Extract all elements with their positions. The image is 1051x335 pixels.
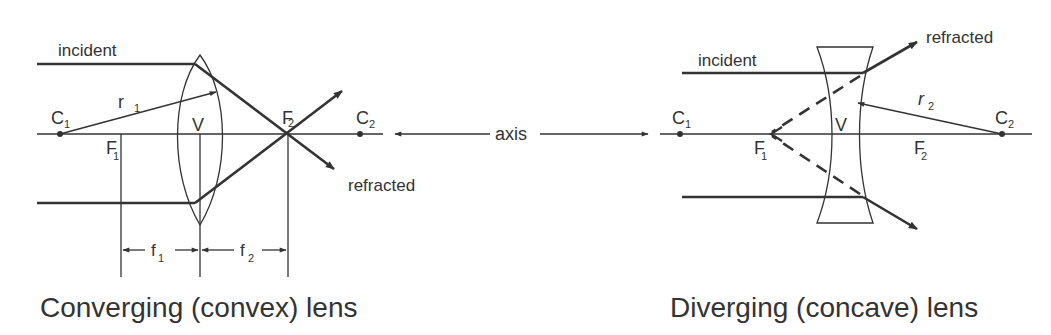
c2-point <box>999 131 1005 137</box>
concave-r-label: r <box>918 89 925 109</box>
convex-vertex-label: V <box>192 115 204 135</box>
concave-vertex-label: V <box>835 115 847 135</box>
convex-c1-subscript: 1 <box>64 118 70 130</box>
lens-diagram: incident refracted C 1 C 2 F 1 F 2 r 1 V… <box>0 0 1051 335</box>
concave-refracted-label: refracted <box>926 28 993 47</box>
convex-c2-subscript: 2 <box>369 118 375 130</box>
c1-point <box>677 131 683 137</box>
axis-annotation: axis <box>395 124 648 144</box>
concave-f1-subscript: 1 <box>761 150 767 162</box>
convex-r-subscript: 1 <box>134 102 140 114</box>
refracted-ray-bottom <box>195 91 342 203</box>
refracted-ray-top <box>195 64 334 169</box>
concave-r-subscript: 2 <box>928 100 934 112</box>
convex-f1-dim-label: f <box>151 241 156 260</box>
c2-point <box>357 131 363 137</box>
concave-incident-label: incident <box>698 51 757 70</box>
concave-lens-diagram: incident refracted C 1 C 2 F 1 F 2 r 2 V… <box>660 28 1032 323</box>
convex-incident-label: incident <box>58 41 117 60</box>
convex-f1-dim-subscript: 1 <box>158 252 164 264</box>
concave-c2-label: C <box>995 108 1008 128</box>
convex-f1-subscript: 1 <box>113 150 119 162</box>
convex-c2-label: C <box>356 108 369 128</box>
convex-lens-diagram: incident refracted C 1 C 2 F 1 F 2 r 1 V… <box>37 41 415 323</box>
concave-c1-subscript: 1 <box>685 118 691 130</box>
refracted-ray-bottom <box>863 197 917 229</box>
convex-refracted-label: refracted <box>348 176 415 195</box>
concave-f2-subscript: 2 <box>921 150 927 162</box>
convex-caption: Converging (convex) lens <box>40 292 358 323</box>
convex-r-label: r <box>118 92 124 112</box>
convex-c1-label: C <box>51 108 64 128</box>
c1-point <box>57 131 63 137</box>
concave-c1-label: C <box>672 108 685 128</box>
convex-f2-subscript: 2 <box>288 117 294 129</box>
virtual-ray-bottom <box>772 136 860 194</box>
axis-label: axis <box>495 124 527 144</box>
concave-c2-subscript: 2 <box>1008 118 1014 130</box>
convex-f2-dim-label: f <box>240 241 245 260</box>
concave-caption: Diverging (concave) lens <box>670 292 978 323</box>
convex-f2-dim-subscript: 2 <box>248 252 254 264</box>
